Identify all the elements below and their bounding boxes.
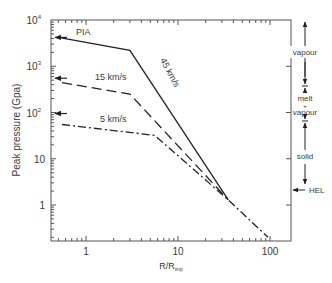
plot-frame xyxy=(51,20,291,241)
y-tick-label: 103 xyxy=(27,60,42,72)
y-tick-label: 102 xyxy=(27,107,42,119)
regime-solid: solid xyxy=(297,152,313,161)
x-tick-label: 100 xyxy=(262,246,279,257)
axis-ticks xyxy=(51,20,291,241)
label-15kms: 15 km/s xyxy=(95,72,127,82)
y-tick-label: 1 xyxy=(39,200,45,211)
chart-annotations: vapourmelt+vapoursolidHEL xyxy=(55,22,325,195)
regime-vapour: vapour xyxy=(293,48,318,57)
regime-hel: HEL xyxy=(309,186,325,195)
regime-melt-vapour: vapour xyxy=(293,108,318,117)
y-axis-label: Peak pressure (Gpa) xyxy=(11,84,22,177)
label-5kms: 5 km/s xyxy=(100,114,127,124)
peak-pressure-chart: 110100110102103104R/RimpPeak pressure (G… xyxy=(0,0,332,283)
series-line-5-km-s xyxy=(62,125,268,238)
x-tick-label: 10 xyxy=(172,246,184,257)
x-tick-label: 1 xyxy=(83,246,89,257)
regime-melt-vapour: melt xyxy=(297,94,313,103)
x-axis-label: R/Rimp xyxy=(159,261,183,272)
y-tick-label: 104 xyxy=(27,14,42,26)
plot-area-border xyxy=(51,20,291,241)
label-45kms: 45 km/s xyxy=(158,56,182,89)
series-line-45-km-s xyxy=(58,37,228,199)
series-line-15-km-s xyxy=(62,83,228,200)
y-tick-label: 10 xyxy=(34,154,46,165)
label-pia: PIA xyxy=(76,27,91,37)
